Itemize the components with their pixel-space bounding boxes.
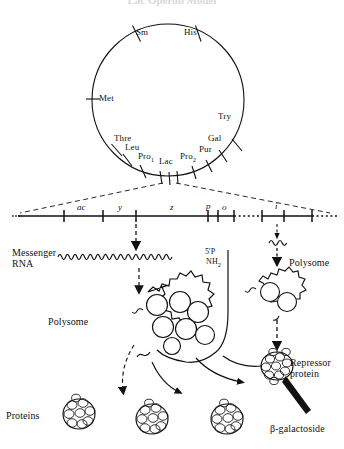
operon-label-i: i (275, 202, 278, 211)
marker-label-his: His (184, 28, 197, 37)
operon-label-o: o (222, 203, 227, 212)
polysome-large (132, 271, 215, 357)
inducer-arrow (282, 376, 311, 414)
protein-blob-1 (63, 394, 95, 429)
marker-label-met: Met (99, 94, 114, 103)
polysome-right-label: Polysome (289, 258, 329, 268)
marker-label-pur: Pur (199, 145, 212, 154)
projection-lines (20, 183, 330, 213)
polysome-small (245, 267, 306, 320)
proteins-label: Proteins (6, 411, 40, 421)
operon-label-z: z (170, 203, 174, 212)
repressor-binding-curve (223, 356, 261, 366)
figure-canvas: Lac Operon Model (0, 0, 344, 449)
inducer-label: β-galactoside (270, 424, 325, 434)
messenger-rna-label: Messenger RNA (12, 248, 56, 269)
repressor-mrna-wave (269, 241, 287, 246)
marker-label-pro1: Pro1 (138, 152, 154, 163)
repressor-protein-label: Repressor protein (290, 358, 331, 379)
marker-label-pro2: Pro2 (180, 152, 196, 163)
marker-label-try: Try (218, 112, 231, 121)
operon-label-p: p (206, 202, 211, 211)
protein-output-arrows (122, 345, 241, 392)
operon-axis (12, 210, 338, 222)
mrna-5prime-label: 5'P (205, 248, 215, 256)
polysome-left-label: Polysome (48, 317, 88, 327)
diagram-svg (0, 0, 344, 449)
operon-label-ac: ac (77, 203, 86, 212)
marker-label-lac: Lac (159, 157, 173, 166)
marker-label-gal: Gal (208, 134, 221, 143)
protein-blob-3 (211, 399, 243, 434)
operon-label-y: y (118, 203, 122, 212)
mrna-nh2-label: NH2 (206, 258, 221, 268)
marker-label-sm: Sm (136, 28, 148, 37)
messenger-rna-wave (58, 254, 172, 259)
protein-blob-2 (136, 399, 168, 434)
